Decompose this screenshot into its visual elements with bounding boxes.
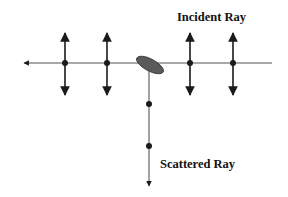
scatterer-ellipse: [134, 53, 166, 78]
scattered-dot-1: [146, 101, 152, 107]
scattered-dot-2: [146, 143, 152, 149]
scattering-diagram: [0, 0, 288, 197]
polarization-arrow-1: [62, 33, 68, 95]
incident-ray-label: Incident Ray: [177, 10, 246, 25]
polarization-arrow-3: [187, 33, 193, 95]
scattered-ray-label: Scattered Ray: [160, 157, 235, 172]
polarization-arrow-2: [104, 33, 110, 95]
polarization-arrow-4: [230, 33, 236, 95]
